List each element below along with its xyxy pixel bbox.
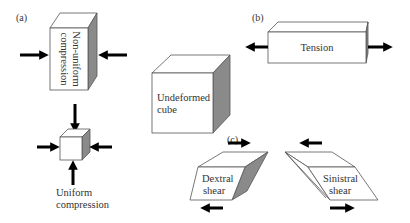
dextral-label-line1: Dextral	[202, 173, 234, 184]
non-uniform-label-line1: Non-uniform	[71, 31, 82, 86]
panel-b-label: (b)	[252, 12, 264, 24]
dextral-label-line2: shear	[203, 185, 226, 196]
panel-a-label: (a)	[16, 12, 27, 24]
uniform-label-line2: compression	[56, 199, 110, 210]
sinistral-shear-block: Sinistral shear	[285, 152, 378, 200]
uniform-label-line1: Uniform	[56, 187, 92, 198]
undeformed-cube: Undeformed cube	[152, 55, 230, 133]
non-uniform-box: Non-uniform compression	[50, 13, 97, 90]
uniform-cube	[60, 129, 90, 160]
non-uniform-label-line2: compression	[59, 32, 70, 86]
dextral-shear-block: Dextral shear	[190, 152, 268, 200]
undeformed-label-line2: cube	[157, 104, 177, 115]
undeformed-cube-front	[152, 73, 213, 133]
uniform-cube-front	[60, 137, 82, 160]
sinistral-label-line1: Sinistral	[323, 173, 358, 184]
sinistral-label-line2: shear	[329, 185, 352, 196]
undeformed-label-line1: Undeformed	[157, 92, 211, 103]
tension-label: Tension	[300, 42, 334, 53]
deformation-diagram: (a) Non-uniform compression Uniform comp…	[0, 0, 410, 223]
tension-bar: Tension	[268, 22, 368, 63]
tension-bar-top	[268, 22, 368, 32]
